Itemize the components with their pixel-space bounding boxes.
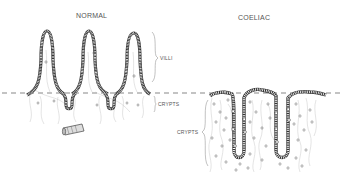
panel-title-normal: NORMAL bbox=[76, 12, 107, 19]
diagram-drawing bbox=[0, 0, 346, 182]
coeliac-inflammatory-cells bbox=[211, 99, 313, 172]
normal-crypts-brace bbox=[154, 96, 156, 112]
label-crypts-normal: CRYPTS bbox=[158, 101, 179, 107]
vessel-fragment bbox=[62, 124, 84, 135]
normal-villus-3 bbox=[116, 33, 150, 94]
coeliac-mucosal-surface bbox=[210, 89, 326, 157]
villi-brace bbox=[152, 32, 158, 82]
normal-villus-2 bbox=[72, 31, 108, 94]
label-villi: VILLI bbox=[160, 55, 173, 61]
panel-title-coeliac: COELIAC bbox=[238, 14, 270, 21]
intestinal-mucosa-diagram: NORMAL COELIAC VILLI CRYPTS CRYPTS bbox=[0, 0, 346, 182]
normal-crypt-1 bbox=[62, 93, 76, 109]
label-crypts-coeliac: CRYPTS bbox=[177, 129, 198, 135]
coeliac-crypts-brace bbox=[202, 100, 208, 166]
